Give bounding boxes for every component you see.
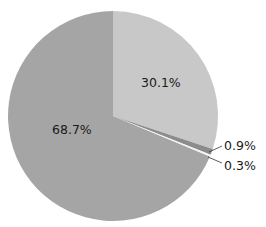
label-30-1: 30.1%: [141, 75, 181, 90]
pie-chart: 30.1% 0.9% 0.3% 68.7%: [0, 0, 266, 227]
label-0-3: 0.3%: [224, 158, 256, 173]
leader-line-0-3: [208, 157, 222, 163]
label-0-9: 0.9%: [224, 138, 256, 153]
label-68-7: 68.7%: [52, 122, 92, 137]
